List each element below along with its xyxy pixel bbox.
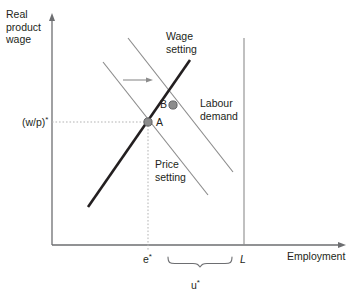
x-axis-arrowhead — [338, 242, 346, 248]
shift-arrow-head — [146, 78, 153, 83]
wage-setting-label: Wagesetting — [166, 30, 197, 55]
u-star-label: u* — [191, 279, 200, 292]
y-axis-title-line2: product — [6, 21, 41, 33]
wage-axis-value-label: (w/p)* — [22, 116, 48, 129]
labour-demand-label: Labourdemand — [200, 97, 238, 122]
price-setting-label-line2: setting — [155, 171, 186, 183]
wage-setting-curve — [88, 60, 190, 207]
shift-arrow — [123, 78, 153, 83]
e-star-tick-label: e* — [143, 253, 152, 266]
price-setting-label: Pricesetting — [155, 158, 186, 183]
price-setting-label-line1: Price — [155, 158, 179, 170]
unemployment-brace — [168, 257, 232, 267]
y-axis-title-line1: Real — [6, 8, 28, 20]
y-axis-arrowhead — [49, 13, 55, 21]
u-star-sup: * — [197, 278, 200, 287]
labour-demand-label-line2: demand — [200, 110, 238, 122]
labour-force-label: L — [240, 253, 246, 266]
e-star-sup: * — [149, 252, 152, 261]
point-a-label: A — [156, 116, 163, 129]
axes — [49, 13, 346, 248]
point-b-label: B — [160, 98, 167, 111]
wage-axis-value: (w/p) — [22, 116, 45, 128]
point-b-marker — [169, 101, 177, 109]
labour-demand-label-line1: Labour — [200, 97, 233, 109]
wage-setting-label-line1: Wage — [166, 30, 193, 42]
x-axis-title: Employment — [287, 250, 345, 263]
y-axis-title: Realproductwage — [6, 8, 41, 46]
y-axis-title-line3: wage — [6, 33, 31, 45]
point-a-marker — [144, 118, 152, 126]
wage-setting-label-line2: setting — [166, 43, 197, 55]
wage-axis-star: * — [45, 115, 48, 124]
